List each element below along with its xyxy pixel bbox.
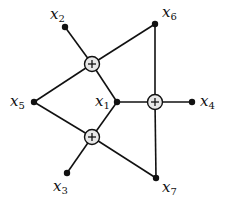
label-x7: x7: [162, 178, 177, 197]
variable-nodes: [31, 21, 195, 181]
labels: x2 x6 x5 x1 x4 x3 x7: [10, 3, 215, 197]
node-x2: [62, 24, 68, 30]
edge-x5-plus-bottom: [34, 102, 92, 137]
sum-node-top: [85, 57, 100, 72]
edges: [34, 24, 192, 178]
sum-node-bottom: [85, 130, 100, 145]
node-x1: [114, 99, 120, 105]
sum-node-right: [148, 95, 163, 110]
node-x7: [153, 175, 159, 181]
node-x4: [189, 99, 195, 105]
label-x2: x2: [50, 5, 65, 24]
label-x1: x1: [95, 92, 110, 111]
node-x6: [152, 21, 158, 27]
factor-graph: x2 x6 x5 x1 x4 x3 x7: [0, 0, 229, 202]
node-x3: [64, 170, 70, 176]
edge-plus-right-x7: [155, 102, 156, 178]
edge-plus-top-x6: [92, 24, 155, 64]
label-x3: x3: [53, 177, 68, 196]
label-x6: x6: [162, 3, 177, 22]
edge-plus-bottom-x7: [92, 137, 156, 178]
label-x5: x5: [10, 92, 25, 111]
edge-plus-top-x5: [34, 64, 92, 102]
label-x4: x4: [200, 92, 215, 111]
node-x5: [31, 99, 37, 105]
